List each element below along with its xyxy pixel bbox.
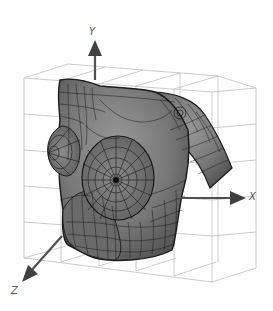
z-axis-label: Z — [11, 285, 18, 296]
y-axis — [88, 40, 102, 80]
x-axis — [180, 191, 246, 205]
x-axis-label: X — [249, 191, 256, 202]
z-axis — [22, 236, 62, 282]
torso-mesh — [48, 79, 232, 260]
torso-diagram — [0, 0, 273, 311]
y-axis-label: Y — [89, 26, 95, 37]
